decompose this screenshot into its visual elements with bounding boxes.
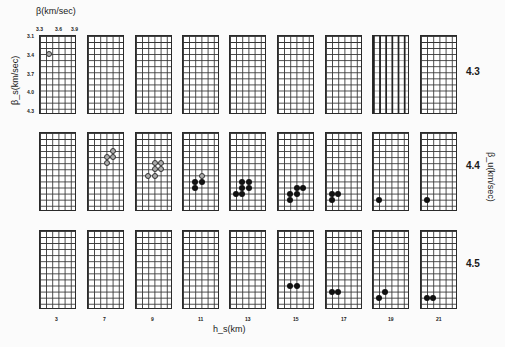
data-point <box>233 191 239 197</box>
data-point <box>158 166 164 172</box>
panel-hs7-bu43 <box>87 35 124 114</box>
panel-hs7-bu44 <box>87 132 124 211</box>
column-label-17: 17 <box>341 316 347 322</box>
column-label-13: 13 <box>245 316 251 322</box>
panel-hs15-bu43 <box>277 35 314 114</box>
data-point <box>294 283 300 289</box>
data-point <box>110 154 116 160</box>
data-point <box>382 289 388 295</box>
data-point <box>430 295 436 301</box>
panel-hs13-bu43 <box>229 35 266 114</box>
data-point <box>46 51 52 57</box>
panel-hs9-bu44 <box>135 132 172 211</box>
data-point <box>329 197 335 203</box>
column-label-9: 9 <box>151 316 154 322</box>
data-point <box>424 295 430 301</box>
panel-y-axis-title: β_s(km/sec) <box>10 56 20 105</box>
panel-hs11-bu44 <box>182 132 219 211</box>
panel-hs21-bu44 <box>420 132 457 211</box>
panel-hs15-bu44 <box>277 132 314 211</box>
data-point <box>287 283 293 289</box>
column-label-3: 3 <box>55 316 58 322</box>
column-label-11: 11 <box>198 316 203 322</box>
data-point <box>335 289 341 295</box>
panel-x-axis-title: β(km/sec) <box>36 6 76 16</box>
panel-y-tick-1: 3.4 <box>27 52 34 58</box>
column-label-7: 7 <box>103 316 106 322</box>
data-point <box>376 197 382 203</box>
data-point <box>192 185 198 191</box>
panel-x-tick-0: 3.3 <box>36 26 43 32</box>
panel-hs3-bu44 <box>39 132 76 211</box>
panel-y-tick-0: 3.1 <box>27 33 34 39</box>
row-axis-title: β_u(km/sec) <box>486 152 496 202</box>
panel-hs11-bu43 <box>182 35 219 114</box>
data-point <box>300 185 306 191</box>
data-point <box>329 289 335 295</box>
panel-hs17-bu45 <box>325 230 362 309</box>
panel-hs17-bu44 <box>325 132 362 211</box>
panel-hs7-bu45 <box>87 230 124 309</box>
panel-hs13-bu44 <box>229 132 266 211</box>
panel-hs15-bu45 <box>277 230 314 309</box>
panel-hs19-bu44 <box>372 132 409 211</box>
panel-x-tick-1: 3.6 <box>55 26 62 32</box>
panel-x-tick-2: 3.9 <box>71 26 78 32</box>
panel-hs9-bu43 <box>135 35 172 114</box>
panel-hs17-bu43 <box>325 35 362 114</box>
data-point <box>239 191 245 197</box>
panel-y-tick-2: 3.7 <box>27 71 34 77</box>
data-point <box>199 179 205 185</box>
panel-hs13-bu45 <box>229 230 266 309</box>
data-point <box>287 197 293 203</box>
data-point <box>424 197 430 203</box>
column-label-19: 19 <box>388 316 394 322</box>
x-axis-title: h_s(km) <box>213 324 246 334</box>
panel-hs11-bu45 <box>182 230 219 309</box>
data-point <box>376 295 382 301</box>
panel-hs3-bu43 <box>39 35 76 114</box>
column-label-15: 15 <box>293 316 299 322</box>
data-point <box>335 191 341 197</box>
panel-hs21-bu45 <box>420 230 457 309</box>
column-label-21: 21 <box>436 316 442 322</box>
panel-hs3-bu45 <box>39 230 76 309</box>
panel-hs9-bu45 <box>135 230 172 309</box>
panel-hs19-bu43 <box>372 35 409 114</box>
data-point <box>104 160 110 166</box>
data-point <box>152 173 158 179</box>
data-point <box>294 191 300 197</box>
row-label-0: 4.3 <box>466 66 480 77</box>
row-label-1: 4.4 <box>466 160 480 171</box>
row-label-2: 4.5 <box>466 258 480 269</box>
panel-hs21-bu43 <box>420 35 457 114</box>
data-point <box>145 173 151 179</box>
data-point <box>246 185 252 191</box>
panel-y-tick-4: 4.3 <box>27 108 34 114</box>
panel-hs19-bu45 <box>372 230 409 309</box>
panel-y-tick-3: 4.0 <box>27 89 34 95</box>
